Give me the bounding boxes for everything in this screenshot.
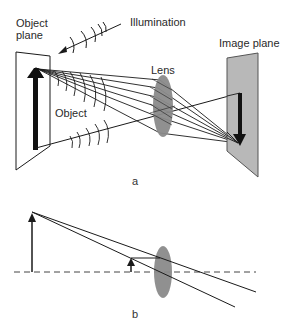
illumination-arrow-icon xyxy=(58,22,121,54)
image-plane xyxy=(227,53,258,177)
lens-a xyxy=(153,75,173,137)
panel-b-label: b xyxy=(132,308,138,320)
image-plane-label: Image plane xyxy=(219,37,280,49)
illumination-label: Illumination xyxy=(130,16,186,28)
lens-b xyxy=(154,246,172,298)
wavefronts-base xyxy=(70,120,108,148)
big-arrow-icon xyxy=(28,213,36,272)
panel-a-label: a xyxy=(132,175,138,187)
rays-b xyxy=(32,212,256,307)
panel-b xyxy=(14,212,256,307)
object-plane-label-line2: plane xyxy=(16,29,43,41)
object-plane-label-line1: Object xyxy=(16,17,48,29)
lens-label: Lens xyxy=(151,64,175,76)
optics-diagram-svg xyxy=(0,0,299,335)
object-label: Object xyxy=(55,107,87,119)
optics-figure: Object plane Illumination Object Lens Im… xyxy=(0,0,299,335)
rays-object-tip xyxy=(38,69,238,143)
